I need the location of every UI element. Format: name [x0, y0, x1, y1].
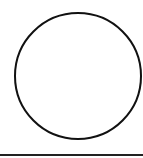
circle-shape	[15, 13, 141, 139]
diagram-canvas	[0, 0, 143, 158]
